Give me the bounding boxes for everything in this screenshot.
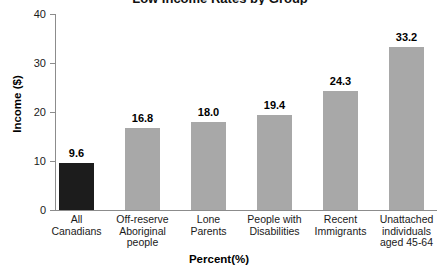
bar-chart-figure: Low Income Rates by Group 010203040 9.61…: [0, 0, 440, 273]
x-axis-category-label-line: All: [42, 214, 111, 226]
y-axis-tick-label-text: 10: [22, 156, 46, 167]
x-axis-category-label-line: aged 45-64: [372, 237, 440, 249]
x-axis-category-label-line: Parents: [174, 226, 243, 238]
x-axis-category-label: LoneParents: [174, 214, 243, 237]
x-axis-line: [55, 210, 437, 211]
x-axis-title: Percent(%): [55, 253, 383, 266]
bar[interactable]: [125, 128, 160, 210]
x-axis-category-label: Off-reserveAboriginalpeople: [108, 214, 177, 249]
bar[interactable]: [59, 163, 94, 210]
x-axis-category-label: Unattachedindividualsaged 45-64: [372, 214, 440, 249]
y-axis-tick-label: 20: [22, 107, 46, 118]
x-axis-category-label: People withDisabilities: [240, 214, 309, 237]
bar[interactable]: [323, 91, 358, 210]
y-axis-tick-label-text: 30: [22, 58, 46, 69]
bar[interactable]: [257, 115, 292, 210]
bar-value-label: 18.0: [181, 107, 236, 118]
bar-value-label: 33.2: [379, 32, 434, 43]
y-axis-tick: [50, 63, 55, 64]
y-axis-tick: [50, 210, 55, 211]
x-axis-category-label-line: people: [108, 237, 177, 249]
bar[interactable]: [389, 47, 424, 210]
y-axis-tick-label-text: 20: [22, 107, 46, 118]
x-axis-category-label-line: Canadians: [42, 226, 111, 238]
x-axis-category-label-line: Recent: [306, 214, 375, 226]
y-axis-tick-label: 30: [22, 58, 46, 69]
x-axis-category-label-line: Unattached: [372, 214, 440, 226]
y-axis-line: [55, 14, 56, 211]
x-axis-category-label: RecentImmigrants: [306, 214, 375, 237]
x-axis-category-label-line: Off-reserve: [108, 214, 177, 226]
x-axis-category-label-line: Immigrants: [306, 226, 375, 238]
bar[interactable]: [191, 122, 226, 210]
y-axis-tick-label: 40: [22, 9, 46, 20]
y-axis-tick: [50, 112, 55, 113]
x-axis-category-label: AllCanadians: [42, 214, 111, 237]
y-axis-tick-label: 10: [22, 156, 46, 167]
x-axis-category-label-line: People with: [240, 214, 309, 226]
y-axis-title: Income ($): [11, 49, 23, 159]
y-axis-tick: [50, 161, 55, 162]
bar-value-label: 16.8: [115, 113, 170, 124]
plot-area: 010203040 9.616.818.019.424.333.2 AllCan…: [0, 0, 440, 273]
x-axis-category-label-line: Lone: [174, 214, 243, 226]
bar-value-label: 24.3: [313, 76, 368, 87]
bar-value-label: 9.6: [49, 148, 104, 159]
y-axis-tick: [50, 14, 55, 15]
y-axis-tick-label-text: 40: [22, 9, 46, 20]
x-axis-category-label-line: Disabilities: [240, 226, 309, 238]
bar-value-label: 19.4: [247, 100, 302, 111]
